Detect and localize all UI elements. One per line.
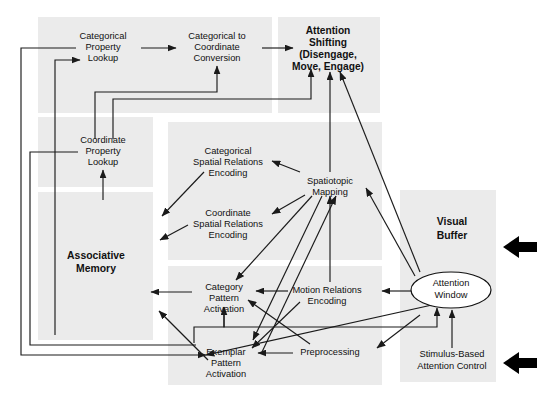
node-label-line: Pattern: [209, 293, 239, 303]
node-label-line: Spatial Relations: [193, 219, 263, 229]
visual-input-arrow-top-icon: [503, 236, 537, 258]
node-label-line: Coordinate: [194, 42, 239, 52]
panel-title-line: Memory: [76, 263, 116, 274]
node-label-line: Shifting: [309, 37, 347, 48]
node-label-line: Exemplar: [206, 347, 245, 357]
node-label-line: Lookup: [88, 53, 119, 63]
node-category-pattern-activation[interactable]: Category Pattern Activation: [204, 282, 244, 314]
node-label-line: Spatiotopic: [307, 176, 353, 186]
node-label-line: Encoding: [209, 230, 248, 240]
node-label-line: Spatial Relations: [193, 157, 263, 167]
panel-layer: [38, 17, 496, 385]
node-spatiotopic-mapping[interactable]: Spatiotopic Mapping: [307, 176, 353, 197]
diagram-root: Attention Window Categorical Property Lo…: [0, 0, 545, 399]
node-label-line: Categorical: [204, 146, 251, 156]
visual-input-arrow-bottom-icon: [503, 352, 537, 374]
node-label-line: Categorical to: [188, 31, 245, 41]
node-label-line: Encoding: [209, 168, 248, 178]
node-label-line: Pattern: [211, 358, 241, 368]
panel-title-line: Associative: [67, 250, 125, 261]
node-label-line: Property: [85, 42, 120, 52]
node-label-line: Conversion: [193, 53, 240, 63]
node-preprocessing[interactable]: Preprocessing: [300, 347, 359, 357]
node-label-line: Attention: [306, 25, 351, 36]
node-exemplar-pattern-activation[interactable]: Exemplar Pattern Activation: [206, 347, 246, 379]
input-arrow-layer: [503, 236, 537, 374]
panel-title-line: Visual: [437, 216, 468, 227]
node-label-line: Category: [205, 282, 243, 292]
cognitive-architecture-diagram: Attention Window Categorical Property Lo…: [0, 0, 545, 399]
panel-title-line: Buffer: [437, 230, 468, 241]
node-label-line: Lookup: [88, 157, 119, 167]
node-label-line: Activation: [206, 369, 246, 379]
node-label-line: Property: [85, 146, 120, 156]
attention-window-label-line2: Window: [434, 290, 467, 300]
panel-spatial-encoding: [168, 122, 382, 260]
attention-window-node[interactable]: Attention Window: [411, 272, 491, 308]
node-label-line: Attention Control: [417, 361, 486, 371]
node-label-line: Motion Relations: [292, 285, 362, 295]
node-label-line: (Disengage,: [299, 49, 357, 60]
node-categorical-to-coordinate-conversion[interactable]: Categorical to Coordinate Conversion: [188, 31, 245, 63]
node-label-line: Activation: [204, 304, 244, 314]
node-label-line: Stimulus-Based: [419, 349, 484, 359]
node-label-line: Preprocessing: [300, 347, 359, 357]
node-label-line: Move, Engage): [292, 61, 364, 72]
node-label-line: Mapping: [312, 187, 348, 197]
node-label-line: Coordinate: [205, 208, 250, 218]
node-label-line: Coordinate: [80, 135, 125, 145]
attention-window-label-line1: Attention: [433, 278, 470, 288]
node-label-line: Categorical: [79, 31, 126, 41]
node-label-line: Encoding: [308, 296, 347, 306]
